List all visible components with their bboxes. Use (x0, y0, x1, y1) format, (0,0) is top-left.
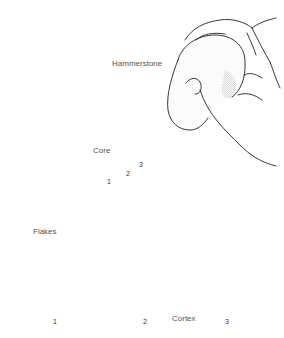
flake-3-number: 3 (225, 318, 229, 325)
core-scar-2-number: 2 (126, 170, 130, 177)
flake-1-number: 1 (53, 318, 57, 325)
core-scar-3-number: 3 (139, 161, 143, 168)
flakes-label: Flakes (33, 228, 57, 236)
hammerstone-label: Hammerstone (112, 60, 162, 68)
hammerstone (167, 35, 245, 130)
core-label: Core (93, 147, 110, 155)
flaking-diagram: Hammerstone Core Flakes Cortex 1 2 3 1 2… (0, 0, 284, 338)
flake-2-number: 2 (143, 318, 147, 325)
cortex-label: Cortex (172, 315, 196, 323)
core-scar-1-number: 1 (107, 178, 111, 185)
